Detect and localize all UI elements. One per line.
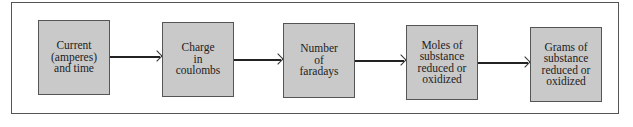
arrow-current-to-charge: [110, 56, 160, 58]
node-grams-of-substance: Grams of substance reduced or oxidized: [530, 27, 602, 102]
node-label: Grams of substance reduced or oxidized: [542, 42, 591, 88]
node-label: Charge in coulombs: [176, 42, 221, 77]
node-number-of-faradays: Number of faradays: [283, 23, 355, 98]
arrow-faradays-to-moles: [355, 60, 404, 62]
node-label: Current (amperes) and time: [51, 40, 97, 75]
node-label: Moles of substance reduced or oxidized: [418, 40, 467, 86]
node-charge-in-coulombs: Charge in coulombs: [162, 22, 234, 97]
node-label: Number of faradays: [300, 43, 339, 78]
node-moles-of-substance: Moles of substance reduced or oxidized: [406, 25, 478, 100]
arrow-charge-to-faradays: [234, 59, 281, 61]
node-current-and-time: Current (amperes) and time: [38, 20, 110, 95]
arrow-moles-to-grams: [478, 62, 528, 64]
